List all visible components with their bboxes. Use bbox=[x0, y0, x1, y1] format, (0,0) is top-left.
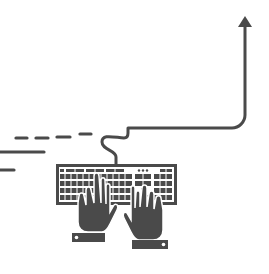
cable-line bbox=[102, 26, 245, 165]
up-arrow-icon bbox=[238, 16, 252, 27]
typing-illustration: Typing on keyboard with rising arrow bbox=[0, 0, 269, 274]
